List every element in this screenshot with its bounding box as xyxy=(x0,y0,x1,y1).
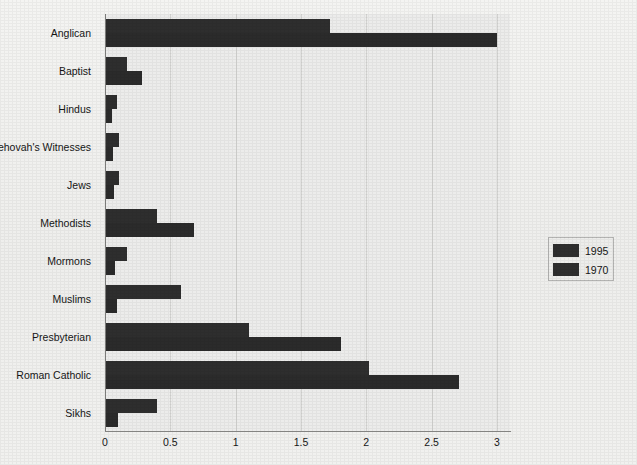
legend-item-1995[interactable]: 1995 xyxy=(553,242,609,259)
x-axis-tick-label: 3 xyxy=(494,436,500,448)
bar[interactable] xyxy=(105,337,341,351)
x-axis-tick-labels: 00.511.522.53 xyxy=(0,436,637,456)
bar-group xyxy=(105,171,510,199)
bar[interactable] xyxy=(105,57,127,71)
x-axis-tick-label: 0.5 xyxy=(163,436,178,448)
x-axis-line xyxy=(105,431,511,432)
bar[interactable] xyxy=(105,133,119,147)
bar[interactable] xyxy=(105,361,369,375)
bar-group xyxy=(105,361,510,389)
bar-group xyxy=(105,247,510,275)
bar-group xyxy=(105,57,510,85)
y-axis-label: Roman Catholic xyxy=(0,369,91,381)
plot-area xyxy=(105,14,510,432)
bar[interactable] xyxy=(105,261,115,275)
x-axis-tick-label: 0 xyxy=(102,436,108,448)
y-axis-labels: AnglicanBaptistHindusJehovah's Witnesses… xyxy=(0,14,98,432)
bar[interactable] xyxy=(105,33,497,47)
y-axis-label: Methodists xyxy=(0,217,91,229)
bar[interactable] xyxy=(105,71,142,85)
y-axis-label: Hindus xyxy=(0,103,91,115)
y-axis-label: Anglican xyxy=(0,27,91,39)
legend[interactable]: 1995 1970 xyxy=(548,237,614,281)
bar-group xyxy=(105,209,510,237)
bar[interactable] xyxy=(105,375,459,389)
bar[interactable] xyxy=(105,413,118,427)
y-axis-label: Sikhs xyxy=(0,407,91,419)
bar[interactable] xyxy=(105,147,113,161)
bar[interactable] xyxy=(105,247,127,261)
bar[interactable] xyxy=(105,209,157,223)
y-axis-line xyxy=(105,14,106,432)
y-axis-label: Presbyterian xyxy=(0,331,91,343)
bar[interactable] xyxy=(105,223,194,237)
bar[interactable] xyxy=(105,323,249,337)
bar-chart: AnglicanBaptistHindusJehovah's Witnesses… xyxy=(0,0,637,465)
bar[interactable] xyxy=(105,19,330,33)
legend-item-1970[interactable]: 1970 xyxy=(553,261,609,278)
legend-swatch-icon-1970 xyxy=(553,263,579,276)
y-axis-label: Baptist xyxy=(0,65,91,77)
bar[interactable] xyxy=(105,399,157,413)
bar-group xyxy=(105,323,510,351)
y-axis-label: Jews xyxy=(0,179,91,191)
legend-label-1970: 1970 xyxy=(585,264,608,276)
x-axis-tick-label: 2.5 xyxy=(424,436,439,448)
x-axis-tick-label: 1.5 xyxy=(294,436,309,448)
bar[interactable] xyxy=(105,171,119,185)
y-axis-label: Mormons xyxy=(0,255,91,267)
legend-label-1995: 1995 xyxy=(585,245,608,257)
bar[interactable] xyxy=(105,185,114,199)
bar[interactable] xyxy=(105,95,117,109)
bar[interactable] xyxy=(105,299,117,313)
x-axis-tick-label: 1 xyxy=(233,436,239,448)
bar-group xyxy=(105,19,510,47)
bar-group xyxy=(105,285,510,313)
legend-swatch-icon-1995 xyxy=(553,244,579,257)
bar-group xyxy=(105,133,510,161)
bars-layer xyxy=(105,14,510,432)
bar[interactable] xyxy=(105,285,181,299)
bar-group xyxy=(105,399,510,427)
y-axis-label: Jehovah's Witnesses xyxy=(0,141,91,153)
y-axis-label: Muslims xyxy=(0,293,91,305)
x-axis-tick-label: 2 xyxy=(363,436,369,448)
bar-group xyxy=(105,95,510,123)
